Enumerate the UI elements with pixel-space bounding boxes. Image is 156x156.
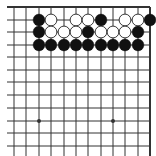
white-stone[interactable] xyxy=(58,26,70,38)
white-stone[interactable] xyxy=(107,26,119,38)
go-board-svg[interactable] xyxy=(0,0,156,156)
white-stone[interactable] xyxy=(45,26,57,38)
black-stone[interactable] xyxy=(45,39,57,51)
black-stone[interactable] xyxy=(132,39,144,51)
white-stone[interactable] xyxy=(119,26,131,38)
black-stone[interactable] xyxy=(107,39,119,51)
white-stone[interactable] xyxy=(119,14,131,26)
white-stone[interactable] xyxy=(82,14,94,26)
black-stone[interactable] xyxy=(95,39,107,51)
black-stone[interactable] xyxy=(70,39,82,51)
white-stone[interactable] xyxy=(45,14,57,26)
star-point xyxy=(111,119,115,123)
black-stone[interactable] xyxy=(95,14,107,26)
black-stone[interactable] xyxy=(119,39,131,51)
black-stone[interactable] xyxy=(33,39,45,51)
black-stone[interactable] xyxy=(144,14,156,26)
star-point xyxy=(37,119,41,123)
white-stone[interactable] xyxy=(95,26,107,38)
black-stone[interactable] xyxy=(33,26,45,38)
white-stone[interactable] xyxy=(70,14,82,26)
black-stone[interactable] xyxy=(82,39,94,51)
black-stone[interactable] xyxy=(58,39,70,51)
black-stone[interactable] xyxy=(33,14,45,26)
black-stone[interactable] xyxy=(132,26,144,38)
white-stone[interactable] xyxy=(132,14,144,26)
white-stone[interactable] xyxy=(70,26,82,38)
black-stone[interactable] xyxy=(82,26,94,38)
